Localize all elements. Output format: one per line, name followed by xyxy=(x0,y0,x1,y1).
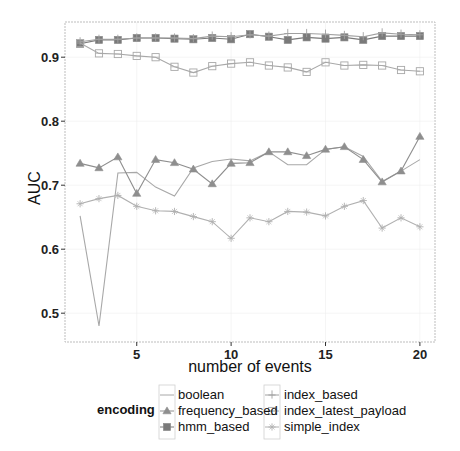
simple-index-star-marker xyxy=(397,214,404,221)
simple-index-star-marker xyxy=(360,197,367,204)
legend: encoding boolean frequency_based hmm_bas… xyxy=(97,385,406,439)
simple-index-star-marker xyxy=(322,212,329,219)
y-tick-label: 0.9 xyxy=(41,50,59,65)
y-tick-label: 0.8 xyxy=(41,114,59,129)
simple-index-star-marker xyxy=(114,192,121,199)
simple-index-star-marker xyxy=(133,203,140,210)
simple-index-star-marker xyxy=(209,218,216,225)
simple-index-star-marker xyxy=(95,195,102,202)
simple-index-star-marker xyxy=(379,224,386,231)
simple-index-star-marker xyxy=(246,214,253,221)
legend-label-index-latest-payload: index_latest_payload xyxy=(284,403,406,418)
y-tick-label: 0.7 xyxy=(41,178,59,193)
simple-index-star-marker xyxy=(190,213,197,220)
x-tick-label: 20 xyxy=(413,347,427,362)
y-axis-title: AUC xyxy=(26,171,43,205)
legend-label-index-based: index_based xyxy=(284,387,358,402)
legend-label-boolean: boolean xyxy=(178,387,224,402)
y-tick-label: 0.6 xyxy=(41,242,59,257)
simple-index-star-marker xyxy=(284,208,291,215)
simple-index-star-marker xyxy=(303,208,310,215)
legend-title: encoding xyxy=(97,402,155,417)
simple-index-star-marker xyxy=(228,235,235,242)
legend-hmm-based-square-marker xyxy=(163,423,170,430)
x-tick-label: 5 xyxy=(133,347,140,362)
simple-index-star-marker xyxy=(171,208,178,215)
y-axis: 0.50.60.70.80.9 xyxy=(41,50,65,321)
legend-label-simple-index: simple_index xyxy=(284,419,360,434)
auc-line-chart: 0.50.60.70.80.9 5101520 number of events… xyxy=(0,0,460,451)
simple-index-star-marker xyxy=(416,223,423,230)
legend-label-hmm-based: hmm_based xyxy=(178,419,250,434)
x-axis-title: number of events xyxy=(188,358,312,375)
hmm-based-square-marker xyxy=(284,36,291,43)
simple-index-star-marker xyxy=(77,200,84,207)
y-tick-label: 0.5 xyxy=(41,306,59,321)
x-tick-label: 15 xyxy=(318,347,332,362)
simple-index-star-marker xyxy=(265,218,272,225)
legend-label-frequency-based: frequency_based xyxy=(178,403,278,418)
simple-index-star-marker xyxy=(152,207,159,214)
